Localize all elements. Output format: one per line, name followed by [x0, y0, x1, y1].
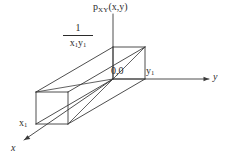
y-axis-label: y	[213, 72, 217, 82]
x1-tick-label: x1	[19, 118, 27, 129]
x-axis-label: x	[11, 143, 15, 153]
x-axis-line	[24, 79, 113, 140]
pdf-axis-label: pXY(x,y)	[93, 2, 128, 14]
height-numerator: 1	[57, 23, 99, 35]
origin-label: 0,0	[111, 66, 124, 76]
height-denominator: x1y1	[57, 36, 99, 49]
y1-tick-label: y1	[146, 66, 154, 77]
box-height-label: 1 x1y1	[57, 23, 99, 49]
figure-line-art	[0, 0, 226, 161]
y-axis-arrowhead	[204, 77, 210, 81]
joint-pdf-figure: pXY(x,y) 1 x1y1 0,0 y1 x1 y x	[0, 0, 226, 161]
